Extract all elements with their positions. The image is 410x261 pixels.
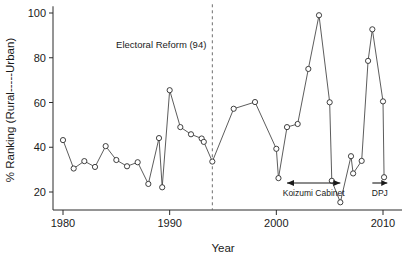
data-point-marker xyxy=(210,159,215,164)
data-point-marker xyxy=(231,106,236,111)
chart-container: 20406080100 1980199020002010 Electoral R… xyxy=(0,0,410,261)
y-axis-title: % Ranking (Rural-----Urban) xyxy=(4,38,16,183)
data-point-marker xyxy=(135,160,140,165)
dpj-arrow-head xyxy=(381,180,387,186)
x-tick-label: 1980 xyxy=(51,217,75,229)
data-point-marker xyxy=(146,181,151,186)
data-point-marker xyxy=(60,137,65,142)
koizumi-arrow-left-head xyxy=(287,180,294,186)
data-point-marker xyxy=(351,171,356,176)
data-point-marker xyxy=(295,121,300,126)
y-tick-label: 60 xyxy=(34,97,46,109)
y-tick-label: 40 xyxy=(34,141,46,153)
data-point-marker xyxy=(274,146,279,151)
data-point-marker xyxy=(124,164,129,169)
x-tick-label: 1990 xyxy=(157,217,181,229)
data-point-marker xyxy=(276,176,281,181)
chart-canvas: 20406080100 1980199020002010 Electoral R… xyxy=(0,0,410,261)
series-line-group xyxy=(63,15,384,202)
data-point-marker xyxy=(365,58,370,63)
axes-group xyxy=(53,6,402,210)
data-point-marker xyxy=(201,139,206,144)
x-axis-title: Year xyxy=(211,242,234,254)
data-point-marker xyxy=(188,132,193,137)
dpj-label: DPJ xyxy=(372,188,388,198)
y-tick-label: 80 xyxy=(34,52,46,64)
data-point-marker xyxy=(114,157,119,162)
data-point-marker xyxy=(167,88,172,93)
electoral-reform-label: Electoral Reform (94) xyxy=(116,39,206,50)
data-point-marker xyxy=(156,135,161,140)
data-point-marker xyxy=(178,125,183,130)
data-point-marker xyxy=(338,200,343,205)
data-point-marker xyxy=(306,66,311,71)
x-tick-group: 1980199020002010 xyxy=(51,210,395,229)
data-point-marker xyxy=(381,175,386,180)
x-tick-label: 2010 xyxy=(371,217,395,229)
data-point-marker xyxy=(370,27,375,32)
data-point-marker xyxy=(380,99,385,104)
data-point-marker xyxy=(284,125,289,130)
y-tick-group: 20406080100 xyxy=(28,7,53,198)
data-point-marker xyxy=(92,164,97,169)
data-point-marker xyxy=(327,100,332,105)
data-point-marker xyxy=(82,159,87,164)
data-point-marker xyxy=(316,13,321,18)
data-point-marker xyxy=(348,154,353,159)
data-point-marker xyxy=(160,185,165,190)
data-point-marker xyxy=(359,158,364,163)
y-tick-label: 100 xyxy=(28,7,46,19)
y-tick-label: 20 xyxy=(34,186,46,198)
koizumi-arrow-right-head xyxy=(333,180,340,186)
x-tick-label: 2000 xyxy=(264,217,288,229)
series-line xyxy=(63,15,384,202)
data-point-marker xyxy=(252,99,257,104)
data-point-marker xyxy=(103,144,108,149)
koizumi-cabinet-label: Koizumi Cabinet xyxy=(283,188,346,198)
data-point-marker xyxy=(71,166,76,171)
series-marker-group xyxy=(60,13,386,205)
